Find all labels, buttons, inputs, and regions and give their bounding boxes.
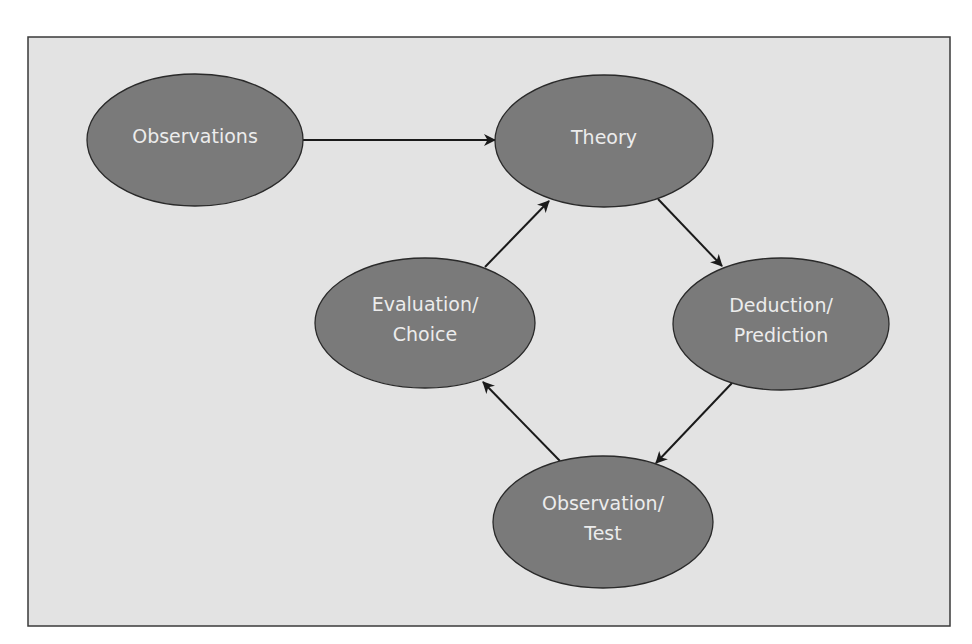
node-theory: Theory <box>495 75 713 207</box>
node-label: Deduction/ <box>729 294 833 316</box>
node-label: Evaluation/ <box>372 293 479 315</box>
node-label: Prediction <box>734 324 828 346</box>
node-observations: Observations <box>87 74 303 206</box>
node-label: Observation/ <box>542 492 665 514</box>
node-label: Choice <box>393 323 457 345</box>
node-label: Observations <box>132 125 258 147</box>
node-label: Theory <box>570 126 637 148</box>
scientific-method-diagram: ObservationsTheoryDeduction/PredictionOb… <box>0 0 972 644</box>
node-deduction: Deduction/Prediction <box>673 258 889 390</box>
node-observation-test: Observation/Test <box>493 456 713 588</box>
node-label: Test <box>583 522 621 544</box>
node-evaluation: Evaluation/Choice <box>315 258 535 388</box>
